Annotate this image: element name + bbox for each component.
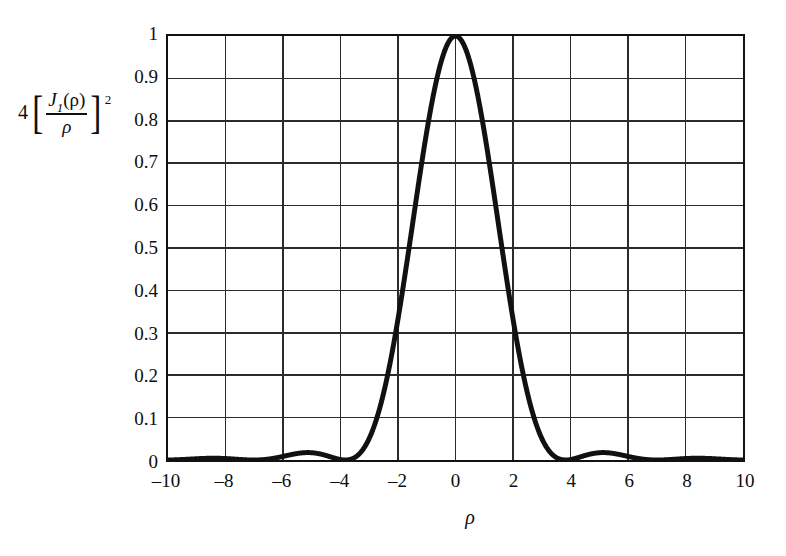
bessel-symbol: J	[48, 89, 56, 110]
x-axis-title: ρ	[0, 506, 786, 529]
airy-intensity-curve	[168, 36, 743, 460]
y-axis-tick-label: 1	[96, 24, 158, 43]
x-axis-tick-label: 4	[541, 470, 601, 492]
fraction-denominator: ρ	[60, 115, 73, 137]
x-axis-tick-label: –8	[194, 470, 254, 492]
y-axis-tick-label: 0.8	[96, 110, 158, 129]
x-axis-tick-label: 0	[426, 470, 486, 492]
x-axis-tick-label: –6	[252, 470, 312, 492]
y-axis-tick-label: 0.4	[96, 281, 158, 300]
x-axis-tick-label: 8	[657, 470, 717, 492]
plot-area	[166, 34, 745, 462]
y-axis-tick-label: 0	[96, 452, 158, 471]
y-axis-tick-label: 0.3	[96, 324, 158, 343]
bessel-argument: (ρ)	[63, 89, 85, 110]
y-axis-tick-label: 0.5	[96, 238, 158, 257]
x-axis-tick-label: –10	[136, 470, 196, 492]
y-axis-tick-label: 0.2	[96, 366, 158, 385]
fraction-numerator: J1(ρ)	[46, 89, 87, 114]
y-axis-tick-label: 0.1	[96, 409, 158, 428]
y-axis-tick-label: 0.7	[96, 152, 158, 171]
x-axis-tick-label: –2	[368, 470, 428, 492]
bessel-order-subscript: 1	[57, 101, 64, 116]
y-axis-tick-labels: 00.10.20.30.40.50.60.70.80.91	[96, 34, 158, 462]
x-axis-tick-labels: –10–8–6–4–20246810	[166, 470, 745, 498]
x-axis-tick-label: 10	[715, 470, 775, 492]
x-axis-title-label: ρ	[465, 506, 475, 529]
x-axis-tick-label: 2	[483, 470, 543, 492]
y-axis-fraction: J1(ρ) ρ	[46, 89, 87, 137]
x-axis-tick-label: 6	[599, 470, 659, 492]
bracket-left: [	[32, 95, 43, 131]
x-axis-tick-label: –4	[310, 470, 370, 492]
y-axis-coefficient: 4	[18, 101, 28, 124]
airy-pattern-figure: 4 [ J1(ρ) ρ ] 2 00.10.20.30.40.50.60.70.…	[0, 0, 786, 556]
airy-curve-path	[168, 36, 743, 460]
y-axis-tick-label: 0.6	[96, 195, 158, 214]
y-axis-tick-label: 0.9	[96, 67, 158, 86]
